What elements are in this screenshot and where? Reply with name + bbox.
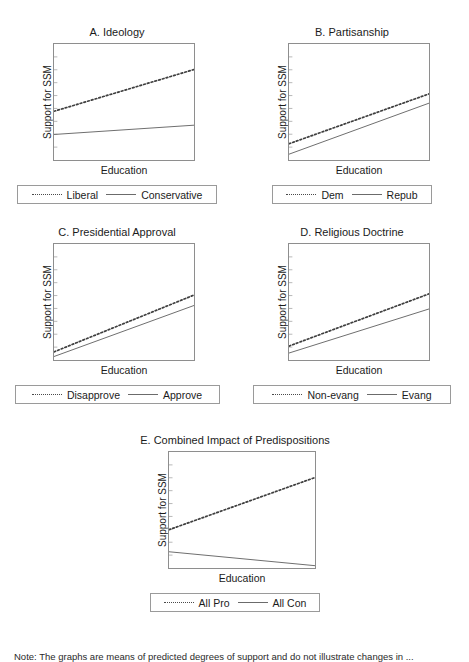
panel-c-presidential-approval: C. Presidential Approval Support for SSM… — [8, 226, 226, 404]
figure-support-for-ssm: A. Ideology Support for SSM Education Li… — [0, 0, 469, 662]
panel-c-plot-area — [53, 243, 195, 361]
dotted-line-swatch-icon — [32, 394, 62, 395]
panel-c-legend-label-dotted: Disapprove — [67, 389, 120, 401]
panel-a-legend-label-solid: Conservative — [141, 189, 202, 201]
panel-a-legend-entry-dotted: Liberal — [32, 189, 99, 201]
series-line-all-pro — [169, 478, 315, 530]
panel-b-legend-label-solid: Repub — [387, 189, 418, 201]
panel-a-title: A. Ideology — [8, 26, 226, 39]
dotted-line-swatch-icon — [32, 194, 62, 195]
panel-c-title: C. Presidential Approval — [8, 226, 226, 239]
panel-d-title: D. Religious Doctrine — [243, 226, 461, 239]
panel-e-legend-entry-solid: All Con — [238, 597, 307, 609]
panel-b-legend-entry-dotted: Dem — [286, 189, 343, 201]
series-line-evang — [289, 309, 429, 353]
panel-e-plot-row: Support for SSM — [108, 451, 362, 569]
panel-b-legend-entry-solid: Repub — [352, 189, 418, 201]
panel-b-partisanship: B. Partisanship Support for SSM Educatio… — [243, 26, 461, 204]
panel-c-y-axis-label: Support for SSM — [40, 243, 53, 361]
panel-c-legend-entry-solid: Approve — [128, 389, 202, 401]
series-line-conservative — [54, 125, 194, 134]
panel-a-legend-label-dotted: Liberal — [67, 189, 99, 201]
panel-e-x-axis-label: Education — [108, 572, 362, 584]
series-line-non-evang — [289, 294, 429, 346]
solid-line-swatch-icon — [352, 194, 382, 195]
dotted-line-swatch-icon — [272, 394, 302, 395]
series-line-liberal — [54, 70, 194, 112]
panel-c-legend: Disapprove Approve — [15, 385, 220, 404]
series-line-dem — [289, 94, 429, 144]
panel-d-legend-label-solid: Evang — [402, 389, 432, 401]
figure-note: Note: The graphs are means of predicted … — [14, 651, 459, 662]
panel-b-legend: Dem Repub — [272, 185, 432, 204]
panel-c-chart-svg — [54, 244, 194, 360]
solid-line-swatch-icon — [128, 394, 158, 395]
solid-line-swatch-icon — [238, 602, 268, 603]
panel-d-plot-row: Support for SSM — [243, 243, 461, 361]
panel-a-chart-svg — [54, 44, 194, 160]
panel-a-plot-area — [53, 43, 195, 161]
panel-c-plot-row: Support for SSM — [8, 243, 226, 361]
series-line-approve — [54, 305, 194, 356]
panel-b-chart-svg — [289, 44, 429, 160]
dotted-line-swatch-icon — [164, 602, 194, 603]
panel-b-plot-area — [288, 43, 430, 161]
panel-d-religious-doctrine: D. Religious Doctrine Support for SSM Ed… — [243, 226, 461, 404]
panel-b-legend-label-dotted: Dem — [321, 189, 343, 201]
panel-a-legend: Liberal Conservative — [17, 185, 217, 204]
panel-d-plot-area — [288, 243, 430, 361]
panel-d-chart-svg — [289, 244, 429, 360]
series-line-repub — [289, 103, 429, 154]
dotted-line-swatch-icon — [286, 194, 316, 195]
panel-a-y-axis-label: Support for SSM — [40, 43, 53, 161]
panel-e-title: E. Combined Impact of Predispositions — [108, 434, 362, 447]
panel-d-legend-entry-solid: Evang — [367, 389, 432, 401]
panel-c-x-axis-label: Education — [8, 364, 226, 376]
panel-b-title: B. Partisanship — [243, 26, 461, 39]
panel-e-y-axis-label: Support for SSM — [155, 451, 168, 569]
panel-d-legend-label-dotted: Non-evang — [307, 389, 358, 401]
series-line-all-con — [169, 552, 315, 566]
solid-line-swatch-icon — [106, 194, 136, 195]
panel-e-legend-entry-dotted: All Pro — [164, 597, 230, 609]
panel-a-x-axis-label: Education — [8, 164, 226, 176]
panel-a-legend-entry-solid: Conservative — [106, 189, 202, 201]
panel-c-legend-label-solid: Approve — [163, 389, 202, 401]
panel-b-plot-row: Support for SSM — [243, 43, 461, 161]
panel-d-x-axis-label: Education — [243, 364, 461, 376]
panel-b-x-axis-label: Education — [243, 164, 461, 176]
panel-a-ideology: A. Ideology Support for SSM Education Li… — [8, 26, 226, 204]
panel-b-y-axis-label: Support for SSM — [275, 43, 288, 161]
panel-e-legend-label-dotted: All Pro — [199, 597, 230, 609]
panel-e-legend-label-solid: All Con — [273, 597, 307, 609]
panel-e-legend: All Pro All Con — [150, 593, 320, 612]
solid-line-swatch-icon — [367, 394, 397, 395]
panel-d-legend-entry-dotted: Non-evang — [272, 389, 358, 401]
series-line-disapprove — [54, 295, 194, 352]
panel-e-chart-svg — [169, 452, 315, 568]
panel-a-plot-row: Support for SSM — [8, 43, 226, 161]
panel-c-legend-entry-dotted: Disapprove — [32, 389, 120, 401]
panel-d-y-axis-label: Support for SSM — [275, 243, 288, 361]
panel-e-combined-impact: E. Combined Impact of Predispositions Su… — [108, 434, 362, 612]
panel-e-plot-area — [168, 451, 316, 569]
panel-d-legend: Non-evang Evang — [253, 385, 451, 404]
